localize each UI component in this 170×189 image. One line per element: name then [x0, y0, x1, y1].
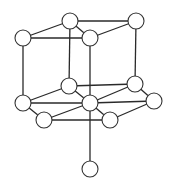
atom-mid-back-left: [61, 78, 77, 94]
bond-line: [69, 84, 135, 86]
atom-bottom: [82, 161, 98, 177]
atom-top-back-right: [128, 13, 144, 29]
atom-low-front-right: [102, 112, 118, 128]
bond-line: [135, 21, 136, 84]
bond-line: [90, 101, 154, 103]
atom-low-front-left: [36, 112, 52, 128]
atom-top-front-right: [82, 30, 98, 46]
atom-mid-left: [15, 95, 31, 111]
atom-mid-back-right: [127, 76, 143, 92]
bond-line: [69, 21, 70, 86]
atom-top-back-left: [62, 13, 78, 29]
atom-top-front-left: [15, 30, 31, 46]
atom-mid-right: [146, 93, 162, 109]
crystal-lattice-diagram: [0, 0, 170, 189]
atom-mid-center: [82, 95, 98, 111]
